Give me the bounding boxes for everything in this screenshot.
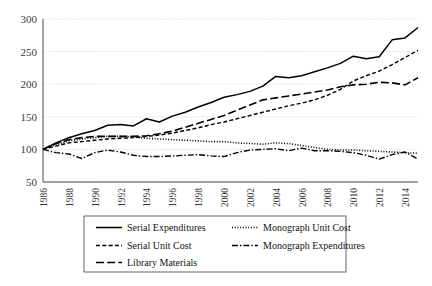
series-line-serial-unit-cost <box>43 50 418 149</box>
x-tick-label: 1998 <box>194 188 204 207</box>
y-tick-label: 100 <box>21 143 38 155</box>
y-tick-label: 250 <box>21 46 38 58</box>
legend-label-library-materials: Library Materials <box>127 257 197 268</box>
x-tick-label: 2010 <box>349 188 359 207</box>
y-axis-tick-labels: 50100150200250300 <box>21 13 38 188</box>
x-tick-label: 1992 <box>117 188 127 207</box>
series-line-serial-expenditures <box>43 27 418 149</box>
y-tick-label: 300 <box>21 13 38 25</box>
legend-label-serial-expenditures: Serial Expenditures <box>127 222 206 233</box>
x-tick-label: 1990 <box>91 188 101 207</box>
legend-entries: Serial ExpendituresMonograph Unit CostSe… <box>96 222 365 268</box>
y-tick-label: 150 <box>21 111 38 123</box>
series-line-monograph-expenditures <box>43 148 418 159</box>
x-tick-label: 1988 <box>65 188 75 207</box>
chart-figure: 50100150200250300 1986198819901992199419… <box>0 0 432 286</box>
legend-label-monograph-unit-cost: Monograph Unit Cost <box>263 222 351 233</box>
x-tick-label: 1994 <box>142 188 152 207</box>
x-tick-label: 1986 <box>39 188 49 207</box>
x-tick-label: 2014 <box>401 188 411 207</box>
y-tick-label: 50 <box>26 176 38 188</box>
x-tick-label: 2002 <box>246 188 256 207</box>
series-layer <box>43 27 418 159</box>
x-tick-label: 1996 <box>168 188 178 207</box>
line-chart: 50100150200250300 1986198819901992199419… <box>0 0 432 286</box>
x-tick-label: 2008 <box>323 188 333 207</box>
legend-label-monograph-expenditures: Monograph Expenditures <box>263 240 365 251</box>
x-axis-tick-labels: 1986198819901992199419961998200020022004… <box>39 188 411 207</box>
series-line-monograph-unit-cost <box>43 136 418 153</box>
gridlines <box>43 19 418 182</box>
y-tick-label: 200 <box>21 78 38 90</box>
legend-label-serial-unit-cost: Serial Unit Cost <box>127 240 192 251</box>
x-tick-label: 2012 <box>375 188 385 207</box>
x-tick-label: 2000 <box>220 188 230 207</box>
x-tick-label: 2006 <box>298 188 308 207</box>
x-tick-label: 2004 <box>272 188 282 207</box>
series-line-library-materials <box>43 78 418 150</box>
